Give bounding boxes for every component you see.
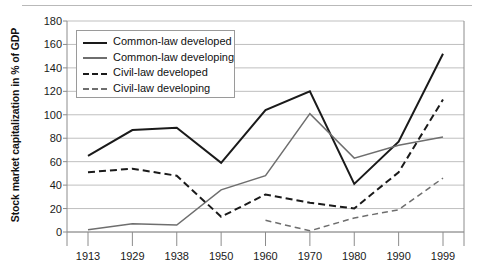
x-tick-label: 1929 xyxy=(120,251,144,262)
x-tick-label: 1990 xyxy=(386,251,410,262)
legend-item-common-law-developing: Common-law developing xyxy=(82,50,229,66)
legend-line-swatch-dashed-dark xyxy=(82,67,108,79)
legend-item-common-law-developed: Common-law developed xyxy=(82,34,229,50)
chart-figure: Stock market capitalization in % of GDP … xyxy=(0,0,480,277)
series-line-civil-law-developed xyxy=(88,100,443,217)
x-tick-label: 1913 xyxy=(76,251,100,262)
legend-line-swatch-solid-dark xyxy=(82,36,108,48)
legend-item-civil-law-developed: Civil-law developed xyxy=(82,65,229,81)
legend-label: Civil-law developing xyxy=(113,83,210,94)
chart-legend: Common-law developed Common-law developi… xyxy=(76,30,235,98)
x-tick-label: 1950 xyxy=(209,251,233,262)
x-tick-label: 1938 xyxy=(165,251,189,262)
legend-line-swatch-dashed-light xyxy=(82,82,108,94)
legend-label: Common-law developing xyxy=(113,52,234,63)
legend-label: Common-law developed xyxy=(113,36,232,47)
x-tick-label: 1970 xyxy=(298,251,322,262)
plot-area xyxy=(0,0,480,277)
series-line-civil-law-developing xyxy=(266,178,444,231)
legend-line-swatch-solid-light xyxy=(82,51,108,63)
legend-item-civil-law-developing: Civil-law developing xyxy=(82,81,229,97)
x-tick-label: 1960 xyxy=(253,251,277,262)
legend-label: Civil-law developed xyxy=(113,67,208,78)
series-line-common-law-developing xyxy=(88,114,443,230)
x-tick-label: 1999 xyxy=(431,251,455,262)
x-tick-label: 1980 xyxy=(342,251,366,262)
